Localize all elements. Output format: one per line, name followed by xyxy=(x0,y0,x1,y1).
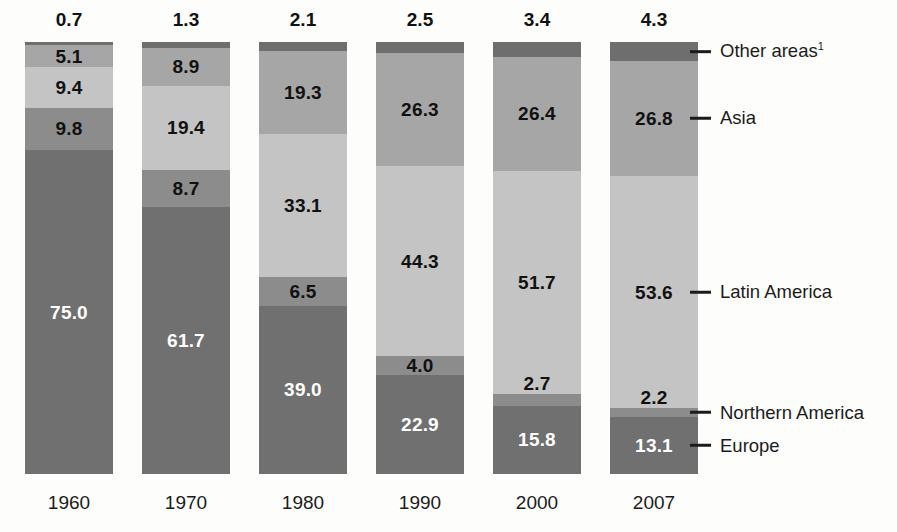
plot-area: 0.75.19.49.875.019601.38.919.48.761.7197… xyxy=(0,0,690,532)
bar-segment-1990-asia: 26.3 xyxy=(376,53,464,166)
bar-stack-2007: 26.853.62.213.1 xyxy=(610,42,698,474)
bar-segment-1980-other-areas xyxy=(259,42,347,51)
bar-segment-label: 13.1 xyxy=(635,436,673,455)
bar-stack-1980: 19.333.16.539.0 xyxy=(259,42,347,474)
bar-group-2000: 3.426.451.72.715.82000 xyxy=(493,0,581,532)
bar-group-1980: 2.119.333.16.539.01980 xyxy=(259,0,347,532)
bar-segment-1970-latin-america: 19.4 xyxy=(142,86,230,170)
bar-segment-1980-northern-america: 6.5 xyxy=(259,277,347,305)
bar-segment-label: 44.3 xyxy=(401,252,439,271)
bar-segment-label: 8.9 xyxy=(172,57,199,76)
bar-group-1970: 1.38.919.48.761.71970 xyxy=(142,0,230,532)
bar-segment-1990-latin-america: 44.3 xyxy=(376,166,464,357)
bar-top-value-2007: 4.3 xyxy=(610,10,698,29)
bar-segment-1960-latin-america: 9.4 xyxy=(25,67,113,108)
bar-segment-1980-europe: 39.0 xyxy=(259,306,347,474)
bar-segment-2000-latin-america: 51.7 xyxy=(493,171,581,394)
legend-item-other-areas[interactable]: Other areas1 xyxy=(690,41,824,61)
bar-segment-label: 26.4 xyxy=(518,104,556,123)
bar-segment-label: 8.7 xyxy=(172,179,199,198)
bar-stack-2000: 26.451.72.715.8 xyxy=(493,42,581,474)
legend-dash-icon xyxy=(690,117,711,120)
bar-segment-label: 9.8 xyxy=(55,119,82,138)
bar-segment-label: 39.0 xyxy=(284,380,322,399)
bar-segment-label: 2.2 xyxy=(640,388,667,407)
x-axis-label-1960: 1960 xyxy=(25,493,113,512)
bar-segment-1990-northern-america: 4.0 xyxy=(376,356,464,375)
bar-segment-label: 19.3 xyxy=(284,83,322,102)
bar-segment-1970-asia: 8.9 xyxy=(142,48,230,86)
bar-segment-label: 19.4 xyxy=(167,118,205,137)
x-axis-label-1980: 1980 xyxy=(259,493,347,512)
bar-segment-1960-europe: 75.0 xyxy=(25,150,113,474)
legend-label: Latin America xyxy=(720,283,832,302)
bar-segment-1970-northern-america: 8.7 xyxy=(142,170,230,208)
legend-dash-icon xyxy=(690,291,711,294)
bar-top-value-1960: 0.7 xyxy=(25,10,113,29)
legend-label: Asia xyxy=(720,109,756,128)
legend-item-asia[interactable]: Asia xyxy=(690,109,756,128)
bar-segment-1960-northern-america: 9.8 xyxy=(25,108,113,150)
legend-item-europe[interactable]: Europe xyxy=(690,436,780,455)
bar-segment-2000-other-areas xyxy=(493,42,581,57)
bar-segment-label: 51.7 xyxy=(518,273,556,292)
bar-segment-label: 26.8 xyxy=(635,109,673,128)
bar-segment-label: 5.1 xyxy=(55,47,82,66)
bar-group-1990: 2.526.344.34.022.91990 xyxy=(376,0,464,532)
legend-item-northern-america[interactable]: Northern America xyxy=(690,403,864,422)
legend-dash-icon xyxy=(690,50,711,53)
bar-segment-label: 2.7 xyxy=(523,374,550,393)
bar-segment-2007-europe: 13.1 xyxy=(610,417,698,474)
bar-segment-2007-northern-america: 2.2 xyxy=(610,408,698,418)
bar-segment-2007-other-areas xyxy=(610,42,698,61)
bar-top-value-1970: 1.3 xyxy=(142,10,230,29)
bar-segment-2007-latin-america: 53.6 xyxy=(610,176,698,408)
x-axis-label-1970: 1970 xyxy=(142,493,230,512)
bar-top-value-1990: 2.5 xyxy=(376,10,464,29)
bar-group-2007: 4.326.853.62.213.12007 xyxy=(610,0,698,532)
bar-segment-1960-asia: 5.1 xyxy=(25,45,113,67)
bar-segment-1990-europe: 22.9 xyxy=(376,375,464,474)
bar-segment-label: 22.9 xyxy=(401,415,439,434)
bar-segment-label: 15.8 xyxy=(518,430,556,449)
bar-segment-1980-asia: 19.3 xyxy=(259,51,347,134)
legend-dash-icon xyxy=(690,411,711,414)
bar-segment-label: 4.0 xyxy=(406,356,433,375)
bar-segment-label: 61.7 xyxy=(167,331,205,350)
bar-top-value-2000: 3.4 xyxy=(493,10,581,29)
bar-stack-1970: 8.919.48.761.7 xyxy=(142,42,230,474)
bar-group-1960: 0.75.19.49.875.01960 xyxy=(25,0,113,532)
x-axis-label-2007: 2007 xyxy=(610,493,698,512)
bar-segment-label: 9.4 xyxy=(55,78,82,97)
x-axis-label-1990: 1990 xyxy=(376,493,464,512)
stacked-bar-chart: 0.75.19.49.875.019601.38.919.48.761.7197… xyxy=(0,0,897,532)
legend-item-latin-america[interactable]: Latin America xyxy=(690,283,832,302)
chart-legend: Other areas1AsiaLatin AmericaNorthern Am… xyxy=(690,0,897,532)
bar-segment-label: 33.1 xyxy=(284,196,322,215)
bar-segment-2000-northern-america: 2.7 xyxy=(493,394,581,406)
bar-segment-label: 75.0 xyxy=(50,303,88,322)
bar-stack-1990: 26.344.34.022.9 xyxy=(376,42,464,474)
legend-dash-icon xyxy=(690,444,711,447)
bar-top-value-1980: 2.1 xyxy=(259,10,347,29)
bar-segment-1990-other-areas xyxy=(376,42,464,53)
bar-segment-1980-latin-america: 33.1 xyxy=(259,134,347,277)
legend-label: Northern America xyxy=(720,403,864,422)
bar-segment-1970-europe: 61.7 xyxy=(142,207,230,474)
bar-segment-label: 53.6 xyxy=(635,283,673,302)
bar-segment-2000-asia: 26.4 xyxy=(493,57,581,171)
bar-segment-2007-asia: 26.8 xyxy=(610,61,698,177)
bar-segment-label: 6.5 xyxy=(289,282,316,301)
bar-segment-label: 26.3 xyxy=(401,100,439,119)
legend-label: Europe xyxy=(720,436,780,455)
bar-segment-2000-europe: 15.8 xyxy=(493,406,581,474)
bar-stack-1960: 5.19.49.875.0 xyxy=(25,42,113,474)
legend-label: Other areas1 xyxy=(720,41,824,61)
x-axis-label-2000: 2000 xyxy=(493,493,581,512)
legend-footnote-marker: 1 xyxy=(818,40,824,52)
